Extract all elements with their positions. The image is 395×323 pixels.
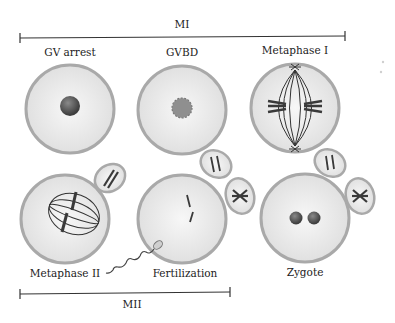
- fertilization-oocyte: [106, 145, 258, 273]
- gv-arrest-oocyte: [26, 65, 114, 153]
- phase-label-mi: MI: [175, 18, 190, 30]
- metaphase-1-oocyte: [251, 64, 339, 152]
- phase-label-mii: MII: [122, 298, 141, 310]
- stage-label-gv-arrest: GV arrest: [44, 46, 95, 58]
- metaphase-2-oocyte: [21, 158, 131, 263]
- stage-label-fertilization: Fertilization: [153, 267, 218, 279]
- gvbd-oocyte: [138, 66, 226, 154]
- stage-label-zygote: Zygote: [287, 266, 324, 278]
- stage-label-gvbd: GVBD: [166, 46, 198, 58]
- zygote-cell: [261, 144, 378, 262]
- stage-label-metaphase-1: Metaphase I: [262, 44, 328, 56]
- mi-phase-bar: [20, 31, 345, 43]
- stage-label-metaphase-2: Metaphase II: [30, 267, 100, 279]
- germinal-vesicle-icon: [60, 96, 80, 116]
- pronucleus-icon: [308, 212, 321, 225]
- scan-artifact: [380, 61, 384, 73]
- dissolving-nucleus-icon: [172, 98, 192, 118]
- pronucleus-icon: [290, 212, 303, 225]
